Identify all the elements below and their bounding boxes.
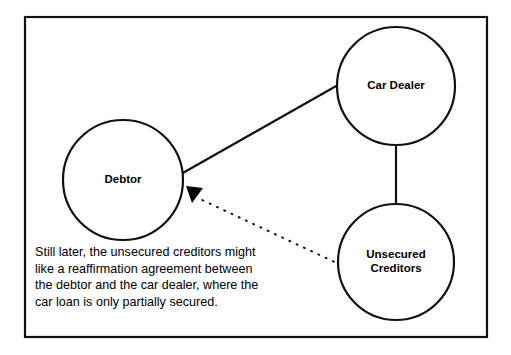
caption-line: Still later, the unsecured creditors mig…: [35, 245, 256, 259]
node-label-line: Creditors: [370, 262, 421, 274]
diagram-container: Debtor Car Dealer UnsecuredCreditors Sti…: [0, 0, 511, 355]
node-label-car-dealer: Car Dealer: [367, 79, 425, 91]
node-label-line: Debtor: [104, 173, 142, 185]
node-label-line: Car Dealer: [367, 79, 425, 91]
diagram-canvas: Debtor Car Dealer UnsecuredCreditors Sti…: [0, 0, 511, 355]
caption-line: the debtor and the car dealer, where the: [35, 278, 258, 292]
node-label-line: Unsecured: [366, 248, 425, 260]
arrowhead-icon: [186, 186, 203, 203]
node-label-debtor: Debtor: [104, 173, 142, 185]
caption-line: like a reaffirmation agreement between: [35, 262, 252, 276]
caption-line: car loan is only partially secured.: [35, 295, 218, 309]
diagram-caption: Still later, the unsecured creditors mig…: [35, 245, 258, 309]
edge-debtor-to-car-dealer: [181, 85, 338, 174]
